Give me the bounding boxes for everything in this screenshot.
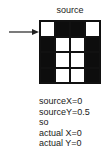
grid-cell-1-1 — [55, 37, 70, 53]
grid-cell-0-0 — [40, 21, 55, 37]
grid-cell-3-0 — [40, 68, 55, 84]
source-x-line: sourceX=0 — [39, 96, 90, 107]
grid-cell-0-1 — [55, 21, 70, 37]
grid-cell-3-2 — [70, 68, 85, 84]
source-title: source — [39, 5, 101, 16]
grid-cell-1-0 — [40, 37, 55, 53]
actual-x-line: actual X=0 — [39, 128, 90, 139]
actual-y-line: actual Y=0 — [39, 138, 90, 149]
grid-cell-3-3 — [85, 68, 100, 84]
grid-cell-2-1 — [55, 52, 70, 68]
grid-cell-0-3 — [85, 21, 100, 37]
grid-cell-0-2 — [70, 21, 85, 37]
source-y-line: sourceY=0.5 — [39, 107, 90, 118]
grid-cell-2-3 — [85, 52, 100, 68]
grid-cell-2-0 — [40, 52, 55, 68]
grid-cell-1-2 — [70, 37, 85, 53]
arrow-right-icon — [9, 29, 39, 35]
coordinates-text: sourceX=0 sourceY=0.5 so actual X=0 actu… — [39, 96, 90, 149]
grid-cell-1-3 — [85, 37, 100, 53]
source-grid — [39, 20, 101, 84]
grid-cell-3-1 — [55, 68, 70, 84]
grid-cell-2-2 — [70, 52, 85, 68]
so-line: so — [39, 117, 90, 128]
